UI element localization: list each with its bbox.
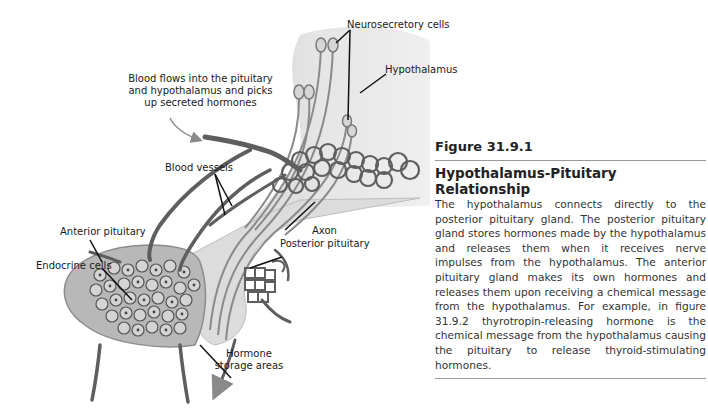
label-posterior-pituitary: Posterior pituitary	[280, 238, 370, 250]
caption-divider-top	[435, 160, 706, 161]
caption-divider-bottom	[435, 378, 706, 379]
label-neurosecretory-cells: Neurosecretory cells	[347, 19, 450, 31]
label-blood-flow-line1: Blood flows into the pituitary	[118, 73, 283, 85]
label-blood-flow-line2: and hypothalamus and picks	[118, 85, 283, 97]
label-hormone-storage: Hormone storage areas	[214, 348, 284, 372]
figure-number: Figure 31.9.1	[435, 138, 706, 156]
label-hormone-storage-line1: Hormone	[214, 348, 284, 360]
figure-description: The hypothalamus connects directly to th…	[435, 197, 706, 372]
label-hormone-storage-line2: storage areas	[214, 360, 284, 372]
blood-inflow-arrow	[170, 118, 200, 140]
figure-title: Hypothalamus-Pituitary Relationship	[435, 165, 706, 197]
label-hypothalamus: Hypothalamus	[385, 64, 458, 76]
label-blood-flow: Blood flows into the pituitary and hypot…	[118, 73, 283, 109]
figure-caption: Figure 31.9.1 Hypothalamus-Pituitary Rel…	[435, 138, 706, 379]
label-endocrine-cells: Endocrine cells	[36, 260, 112, 272]
hypothalamus-pituitary-diagram: Neurosecretory cells Hypothalamus Blood …	[0, 0, 430, 417]
label-blood-vessels: Blood vessels	[165, 162, 233, 174]
label-blood-flow-line3: up secreted hormones	[118, 97, 283, 109]
label-anterior-pituitary: Anterior pituitary	[60, 226, 146, 238]
label-axon: Axon	[312, 225, 337, 237]
